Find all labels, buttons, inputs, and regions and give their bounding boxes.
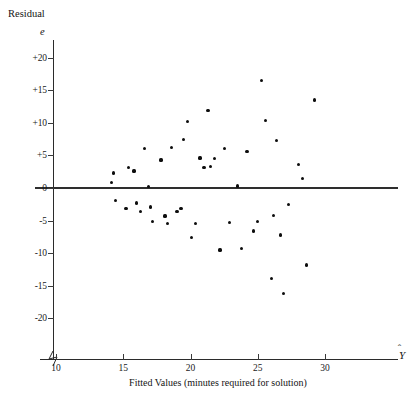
x-tick-mark: [258, 354, 259, 360]
y-tick-label: +15: [32, 85, 47, 95]
residual-axis-title: Residual: [8, 8, 45, 19]
zero-reference-line: [35, 187, 398, 189]
data-point: [305, 263, 308, 266]
y-tick-label: +10: [32, 118, 47, 128]
data-point: [282, 292, 285, 295]
y-hat-letter: Y: [399, 349, 405, 361]
x-tick-label: 30: [310, 363, 340, 374]
data-point: [198, 156, 201, 159]
y-tick-mark: [48, 286, 54, 287]
data-point: [256, 220, 259, 223]
data-point: [114, 199, 117, 202]
data-point: [110, 181, 113, 184]
data-point: [190, 236, 193, 239]
x-tick-label: 20: [176, 363, 206, 374]
data-point: [275, 139, 278, 142]
y-axis-line: [53, 40, 54, 360]
data-point: [264, 119, 267, 122]
data-point: [223, 147, 226, 150]
x-axis-label: Fitted Values (minutes required for solu…: [0, 377, 418, 388]
data-point: [228, 221, 231, 224]
x-tick-mark: [56, 354, 57, 360]
y-tick-label: -15: [35, 281, 47, 291]
data-point: [132, 169, 135, 172]
y-tick-label: -10: [35, 248, 47, 258]
data-point: [175, 210, 178, 213]
data-point: [112, 171, 115, 174]
data-point: [151, 220, 154, 223]
y-tick-mark: [48, 155, 54, 156]
residual-plot-figure: Residual e +20+15+10+50-5-10-15-20 10152…: [0, 0, 418, 399]
data-point: [297, 163, 300, 166]
data-point: [270, 277, 273, 280]
data-point: [166, 222, 169, 225]
data-point: [279, 233, 282, 236]
data-point: [163, 214, 166, 217]
data-point: [135, 201, 138, 204]
y-tick-mark: [48, 253, 54, 254]
y-tick-label: 0: [42, 183, 47, 193]
y-tick-label: -20: [35, 313, 47, 323]
y-tick-label: +20: [32, 53, 47, 63]
y-hat-symbol: ̂Y: [399, 349, 405, 361]
data-point: [313, 98, 316, 101]
data-point: [182, 138, 185, 141]
y-tick-mark: [48, 221, 54, 222]
x-axis-line: [40, 359, 398, 360]
data-point: [301, 177, 304, 180]
y-tick-mark: [48, 123, 54, 124]
y-tick-label: -5: [39, 216, 47, 226]
data-point: [252, 229, 255, 232]
data-point: [287, 203, 290, 206]
data-point: [179, 207, 182, 210]
data-point: [260, 79, 263, 82]
data-point: [245, 150, 248, 153]
x-tick-label: 15: [108, 363, 138, 374]
data-point: [124, 207, 127, 210]
data-point: [213, 157, 216, 160]
residual-symbol-e: e: [40, 26, 45, 37]
data-point: [209, 165, 212, 168]
data-point: [236, 184, 239, 187]
data-point: [159, 158, 162, 161]
data-point: [194, 222, 197, 225]
x-tick-label: 25: [243, 363, 273, 374]
data-point: [149, 205, 152, 208]
data-point: [206, 109, 209, 112]
data-point: [240, 247, 243, 250]
y-tick-mark: [48, 188, 54, 189]
data-point: [218, 248, 221, 251]
y-tick-mark: [48, 90, 54, 91]
y-tick-mark: [48, 58, 54, 59]
y-tick-mark: [48, 318, 54, 319]
data-point: [202, 166, 205, 169]
x-tick-mark: [123, 354, 124, 360]
y-tick-label: +5: [37, 150, 47, 160]
data-point: [272, 214, 275, 217]
data-point: [143, 147, 146, 150]
data-point: [170, 146, 173, 149]
x-tick-mark: [191, 354, 192, 360]
data-point: [139, 210, 142, 213]
x-tick-label: 10: [41, 363, 71, 374]
data-point: [186, 120, 189, 123]
data-point: [127, 166, 130, 169]
x-tick-mark: [325, 354, 326, 360]
